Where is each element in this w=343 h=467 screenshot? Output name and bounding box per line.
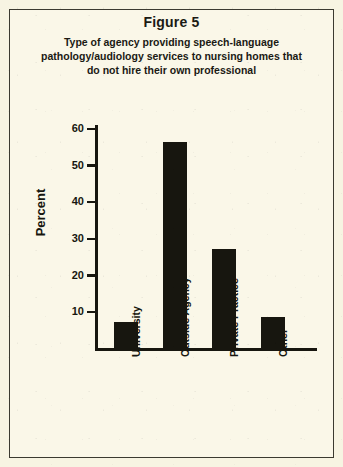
y-tick-label-30: 30 xyxy=(44,233,84,244)
y-tick-label-50: 50 xyxy=(44,160,84,171)
bar-chart-plot: Percent 10 20 30 40 50 60 University Out… xyxy=(0,0,343,467)
y-tick-mark-10 xyxy=(87,311,96,314)
y-tick-mark-20 xyxy=(87,274,96,277)
x-tick-label-private-practice: Private Practice xyxy=(229,278,240,357)
y-tick-label-40: 40 xyxy=(44,196,84,207)
y-tick-mark-50 xyxy=(87,164,96,167)
figure-container: Figure 5 Type of agency providing speech… xyxy=(0,0,343,467)
y-tick-mark-40 xyxy=(87,201,96,204)
y-tick-mark-60 xyxy=(87,128,96,131)
x-tick-label-outside-agency: Outside Agency xyxy=(180,277,191,357)
y-tick-label-20: 20 xyxy=(44,270,84,281)
x-tick-label-university: University xyxy=(131,306,142,357)
x-tick-label-other: Other xyxy=(278,329,289,357)
y-axis-title: Percent xyxy=(33,153,48,273)
y-tick-label-10: 10 xyxy=(44,306,84,317)
y-tick-mark-30 xyxy=(87,238,96,241)
y-tick-label-60: 60 xyxy=(44,123,84,134)
